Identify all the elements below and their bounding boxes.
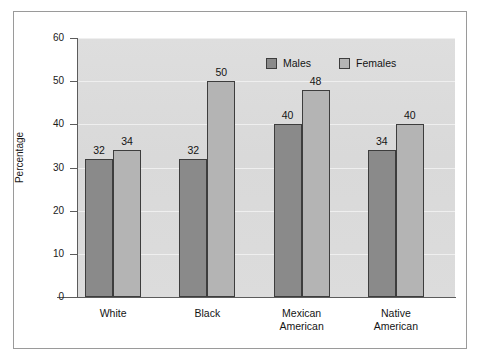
legend-swatch-icon [266, 58, 277, 69]
bar-value-label: 34 [362, 136, 402, 147]
y-axis-tick-label: 40 [18, 119, 64, 129]
y-axis-tick [70, 124, 77, 125]
y-axis-tick-label-text: 0 [18, 292, 64, 302]
x-axis-category-label-line: Black [157, 307, 257, 320]
bar-value-label: 40 [268, 110, 308, 121]
y-axis-line [77, 38, 78, 298]
legend-item-males[interactable]: Males [266, 58, 311, 69]
y-axis-tick-label-text: 40 [18, 119, 64, 129]
y-axis-tick-label-text: 60 [18, 33, 64, 43]
y-axis-tick-label-text: 10 [18, 249, 64, 259]
bar-value-label: 32 [173, 145, 213, 156]
x-axis-category-label-line: American [252, 320, 352, 333]
bar [179, 159, 207, 297]
y-axis-tick [70, 211, 77, 212]
bar-value-label: 40 [390, 110, 430, 121]
y-axis-tick-label-text: 30 [18, 163, 64, 173]
legend-item-label: Males [283, 58, 311, 69]
plot-area: MalesFemales [78, 38, 455, 297]
bar [113, 150, 141, 297]
y-axis-tick-label: 10 [18, 249, 64, 259]
x-axis-category-label: NativeAmerican [346, 307, 446, 333]
y-axis-tick-label: 0 [18, 292, 64, 302]
bar [274, 124, 302, 297]
x-axis-category-label-line: Mexican [252, 307, 352, 320]
bar [396, 124, 424, 297]
y-axis-tick-label-text: 20 [18, 206, 64, 216]
y-axis-tick [70, 254, 77, 255]
y-axis-tick-label: 50 [18, 76, 64, 86]
x-axis-category-label: White [63, 307, 163, 320]
y-axis-tick-label: 30 [18, 163, 64, 173]
bar [368, 150, 396, 297]
x-axis-category-label-line: American [346, 320, 446, 333]
legend-swatch-icon [339, 58, 350, 69]
y-axis-tick [70, 297, 77, 298]
x-axis-category-label: MexicanAmerican [252, 307, 352, 333]
chart-figure: MalesFemales 0102030405060 3234325040483… [0, 0, 481, 363]
y-axis-tick [70, 168, 77, 169]
gridline [78, 38, 455, 39]
legend-item-females[interactable]: Females [339, 58, 396, 69]
bar-value-label: 48 [296, 76, 336, 87]
bar-value-label: 34 [107, 136, 147, 147]
bar [207, 81, 235, 297]
bar [85, 159, 113, 297]
y-axis-tick-label: 20 [18, 206, 64, 216]
chart-legend: MalesFemales [266, 58, 396, 69]
legend-item-label: Females [356, 58, 396, 69]
x-axis-category-label-line: White [63, 307, 163, 320]
x-axis-category-label-line: Native [346, 307, 446, 320]
x-axis-category-label: Black [157, 307, 257, 320]
y-axis-tick [70, 81, 77, 82]
x-axis-line [57, 297, 456, 298]
y-axis-tick [70, 38, 77, 39]
gridline [78, 81, 455, 82]
y-axis-title: Percentage [14, 113, 25, 203]
bar-value-label: 50 [201, 67, 241, 78]
y-axis-tick-label: 60 [18, 33, 64, 43]
y-axis-tick-label-text: 50 [18, 76, 64, 86]
